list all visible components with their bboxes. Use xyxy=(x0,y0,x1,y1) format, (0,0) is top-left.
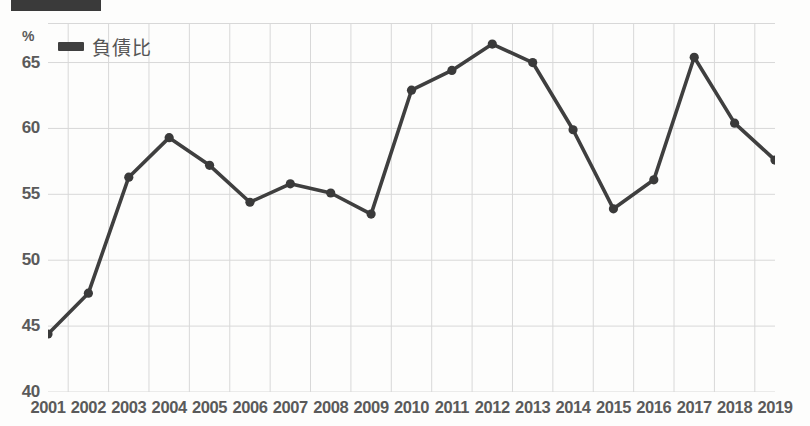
redacted-title-bar xyxy=(11,0,101,11)
x-tick-label: 2016 xyxy=(636,398,671,417)
data-point-marker xyxy=(488,39,497,48)
x-tick-label: 2003 xyxy=(111,398,146,417)
y-tick-label: 45 xyxy=(22,316,40,336)
data-point-marker xyxy=(690,53,699,62)
x-tick-label: 2011 xyxy=(435,398,469,417)
data-point-marker xyxy=(367,209,376,218)
y-tick-label: 50 xyxy=(22,250,40,270)
plot-area xyxy=(48,23,775,392)
x-tick-label: 2015 xyxy=(596,398,631,417)
data-point-marker xyxy=(528,58,537,67)
x-tick-label: 2009 xyxy=(354,398,389,417)
x-tick-label: 2017 xyxy=(677,398,712,417)
y-axis-unit-label: % xyxy=(22,28,34,44)
x-tick-label: 2018 xyxy=(717,398,752,417)
data-point-marker xyxy=(326,188,335,197)
x-tick-label: 2008 xyxy=(313,398,348,417)
data-point-marker xyxy=(286,179,295,188)
x-tick-label: 2012 xyxy=(475,398,510,417)
y-tick-label: 65 xyxy=(22,53,40,73)
data-point-marker xyxy=(165,133,174,142)
data-point-marker xyxy=(447,66,456,75)
x-tick-label: 2002 xyxy=(71,398,106,417)
x-tick-label: 2005 xyxy=(192,398,227,417)
y-tick-label: 55 xyxy=(22,184,40,204)
x-tick-label: 2006 xyxy=(232,398,267,417)
x-tick-label: 2014 xyxy=(555,398,590,417)
data-point-marker xyxy=(407,86,416,95)
x-tick-label: 2007 xyxy=(273,398,308,417)
y-axis: 404550556065 xyxy=(0,23,44,392)
data-point-marker xyxy=(124,173,133,182)
data-point-marker xyxy=(205,161,214,170)
legend-swatch-icon xyxy=(58,42,84,51)
data-point-marker xyxy=(84,289,93,298)
data-point-marker xyxy=(730,119,739,128)
x-tick-label: 2019 xyxy=(757,398,792,417)
data-point-marker xyxy=(568,125,577,134)
legend-label: 負債比 xyxy=(92,33,152,60)
plot-svg xyxy=(48,23,775,392)
chart-legend: 負債比 xyxy=(58,33,152,60)
grid-lines xyxy=(48,23,775,392)
x-axis: 2001200220032004200520062007200820092010… xyxy=(48,394,775,422)
x-tick-label: 2010 xyxy=(394,398,429,417)
data-point-marker xyxy=(245,198,254,207)
data-point-marker xyxy=(649,175,658,184)
debt-ratio-line-chart: 404550556065 % 2001200220032004200520062… xyxy=(0,0,810,426)
y-tick-label: 60 xyxy=(22,118,40,138)
x-tick-label: 2013 xyxy=(515,398,550,417)
series-markers xyxy=(48,39,775,338)
x-tick-label: 2004 xyxy=(152,398,187,417)
x-tick-label: 2001 xyxy=(30,398,65,417)
data-point-marker xyxy=(609,204,618,213)
